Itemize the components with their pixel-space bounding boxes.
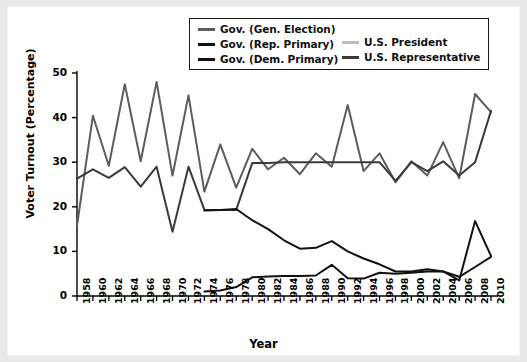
- x-tick-label: 1986: [304, 278, 315, 304]
- x-tick-label: 1968: [161, 278, 172, 304]
- chart-figure: Gov. (Gen. Election) Gov. (Rep. Primary)…: [8, 7, 519, 355]
- x-tick-label: 1990: [336, 278, 347, 304]
- x-tick-label: 2006: [463, 278, 474, 304]
- x-tick-label: 1964: [129, 278, 140, 304]
- x-axis-title: Year: [8, 337, 519, 351]
- x-tick-label: 1988: [320, 278, 331, 304]
- series-line: [77, 82, 491, 226]
- y-tick-label: 0: [43, 289, 67, 301]
- y-tick-label: 10: [43, 244, 67, 256]
- x-tick-label: 1984: [288, 278, 299, 304]
- x-tick-label: 2002: [431, 278, 442, 304]
- x-tick-label: 2004: [447, 278, 458, 304]
- plot-area: Voter Turnout (Percentage) Year 01020304…: [8, 7, 519, 355]
- y-axis-title: Voter Turnout (Percentage): [24, 39, 37, 229]
- x-tick-label: 1998: [399, 278, 410, 304]
- x-tick-label: 1970: [177, 278, 188, 304]
- x-tick-label: 1976: [224, 278, 235, 304]
- x-tick-label: 1978: [240, 278, 251, 304]
- x-tick-label: 1962: [113, 278, 124, 304]
- x-tick-label: 1966: [145, 278, 156, 304]
- x-tick-label: 1960: [97, 278, 108, 304]
- x-tick-label: 1972: [192, 278, 203, 304]
- x-tick-label: 1992: [352, 278, 363, 304]
- x-tick-label: 1958: [81, 278, 92, 304]
- x-tick-label: 1994: [368, 278, 379, 304]
- y-tick-label: 40: [43, 111, 67, 123]
- x-tick-label: 2010: [495, 278, 506, 304]
- x-tick-label: 1974: [208, 278, 219, 304]
- x-tick-label: 1996: [384, 278, 395, 304]
- x-tick-label: 2008: [479, 278, 490, 304]
- y-tick-label: 30: [43, 155, 67, 167]
- y-tick-label: 50: [43, 66, 67, 78]
- y-tick-label: 20: [43, 200, 67, 212]
- x-tick-label: 1980: [256, 278, 267, 304]
- x-tick-label: 1982: [272, 278, 283, 304]
- series-line: [204, 209, 491, 277]
- x-tick-label: 2000: [415, 278, 426, 304]
